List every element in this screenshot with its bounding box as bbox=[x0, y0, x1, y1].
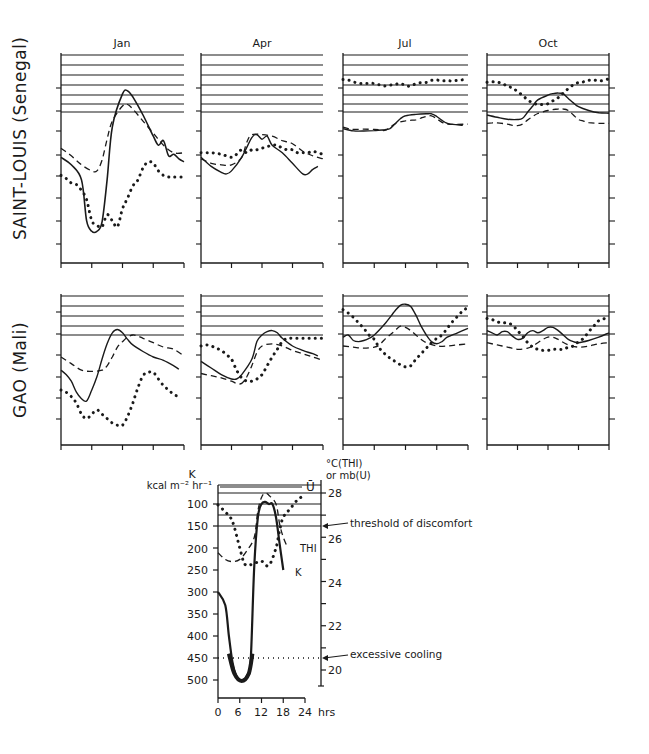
panel-1-2 bbox=[338, 294, 468, 450]
panel-1-3 bbox=[482, 294, 615, 450]
series-thi bbox=[61, 335, 184, 371]
panel-0-0 bbox=[56, 53, 184, 268]
left-tick-450: 450 bbox=[187, 652, 208, 665]
right-tick-24: 24 bbox=[328, 577, 342, 590]
right-tick-22: 22 bbox=[328, 620, 342, 633]
series-k bbox=[343, 304, 468, 344]
right-tick-26: 26 bbox=[328, 533, 342, 546]
x-tick-12: 12 bbox=[254, 706, 268, 719]
panel-curves-oct-0 bbox=[487, 79, 609, 126]
series-thi bbox=[343, 326, 468, 348]
panel-curves-jul-1 bbox=[343, 304, 468, 367]
month-title-jul: Jul bbox=[397, 37, 411, 50]
x-tick-18: 18 bbox=[276, 706, 290, 719]
panel-curves-jan-1 bbox=[61, 330, 184, 426]
legend-right-axis-title-2: or mb(U) bbox=[326, 470, 371, 481]
month-title-oct: Oct bbox=[538, 37, 558, 50]
left-tick-400: 400 bbox=[187, 630, 208, 643]
panel-curves-jan-0 bbox=[61, 90, 184, 233]
series-thi bbox=[61, 104, 184, 172]
month-title-apr: Apr bbox=[252, 37, 272, 50]
panel-0-3 bbox=[482, 53, 615, 268]
legend-right-axis-title-1: °C(THI) bbox=[326, 458, 362, 469]
series-u bbox=[201, 145, 323, 157]
x-tick-0: 0 bbox=[215, 706, 222, 719]
right-tick-20: 20 bbox=[328, 664, 342, 677]
x-tick-6: 6 bbox=[235, 706, 242, 719]
series-u bbox=[61, 372, 179, 426]
panel-grid bbox=[56, 53, 615, 450]
left-tick-150: 150 bbox=[187, 520, 208, 533]
series-thi bbox=[487, 337, 609, 349]
thi-label: THI bbox=[299, 543, 317, 554]
left-tick-300: 300 bbox=[187, 586, 208, 599]
panel-curves-oct-1 bbox=[487, 317, 609, 350]
series-k bbox=[61, 330, 179, 402]
series-k bbox=[61, 90, 184, 233]
series-u bbox=[487, 317, 609, 350]
left-tick-350: 350 bbox=[187, 608, 208, 621]
threshold-of-discomfort-label: threshold of discomfort bbox=[350, 517, 472, 529]
x-tick-24: 24 bbox=[298, 706, 312, 719]
right-tick-28: 28 bbox=[328, 487, 342, 500]
left-tick-250: 250 bbox=[187, 564, 208, 577]
series-u bbox=[487, 79, 609, 105]
series-k bbox=[201, 331, 318, 380]
panel-curves bbox=[61, 79, 609, 426]
climate-comfort-figure: SAINT-LOUIS (Senegal) GAO (Mali) Jan Apr… bbox=[0, 0, 649, 754]
row-label-gao: GAO (Mali) bbox=[10, 322, 30, 418]
series-u bbox=[61, 162, 184, 228]
k-label: K bbox=[295, 567, 302, 578]
panel-curves-jul-0 bbox=[343, 80, 468, 132]
legend-chart-curves bbox=[218, 493, 305, 681]
left-tick-100: 100 bbox=[187, 498, 208, 511]
panel-1-1 bbox=[196, 294, 323, 450]
panel-curves-apr-1 bbox=[201, 331, 323, 384]
row-label-saint-louis: SAINT-LOUIS (Senegal) bbox=[10, 36, 30, 240]
excessive-cooling-label: excessive cooling bbox=[350, 648, 442, 660]
panel-1-0 bbox=[56, 294, 184, 450]
panel-0-1 bbox=[196, 53, 323, 268]
series-k bbox=[343, 114, 463, 132]
left-tick-200: 200 bbox=[187, 543, 208, 556]
legend-chart: K kcal m⁻² hr⁻¹ °C(THI) or mb(U) 100 150… bbox=[147, 458, 473, 719]
month-title-jan: Jan bbox=[113, 37, 131, 50]
legend-left-axis-title-units: kcal m⁻² hr⁻¹ bbox=[147, 480, 212, 491]
left-tick-500: 500 bbox=[187, 674, 208, 687]
series-u bbox=[201, 338, 323, 382]
x-unit-hrs: hrs bbox=[318, 706, 335, 719]
ubar-label: Ū bbox=[306, 480, 315, 494]
series-k bbox=[487, 93, 609, 120]
panel-curves-apr-0 bbox=[201, 134, 323, 175]
